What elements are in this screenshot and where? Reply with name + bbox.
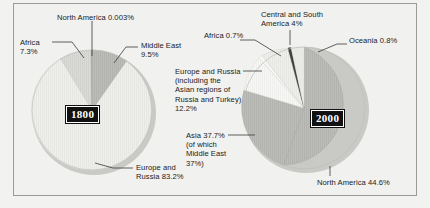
pie-chart-figure: North America 0.003% Africa 7.3% Middle … bbox=[0, 0, 430, 208]
label-2000-central-south-america: Central and South America 4% bbox=[261, 10, 323, 28]
pie-2000 bbox=[242, 47, 369, 173]
label-1800-middle-east: Middle East 9.5% bbox=[141, 41, 181, 59]
label-2000-oceania: Oceania 0.8% bbox=[349, 36, 397, 45]
label-1800-africa: Africa 7.3% bbox=[20, 38, 40, 56]
label-1800-north-america: North America 0.003% bbox=[57, 13, 134, 22]
year-badge-2000: 2000 bbox=[311, 110, 344, 127]
label-2000-asia: Asia 37.7% (of which Middle East 37%) bbox=[186, 131, 226, 168]
year-badge-1800: 1800 bbox=[66, 106, 99, 123]
label-2000-north-america: North America 44.6% bbox=[317, 178, 390, 187]
label-2000-africa: Africa 0.7% bbox=[204, 31, 243, 40]
label-2000-europe-russia: Europe and Russia (including the Asian r… bbox=[175, 67, 241, 113]
label-1800-europe-russia: Europe and Russia 83.2% bbox=[136, 163, 183, 181]
